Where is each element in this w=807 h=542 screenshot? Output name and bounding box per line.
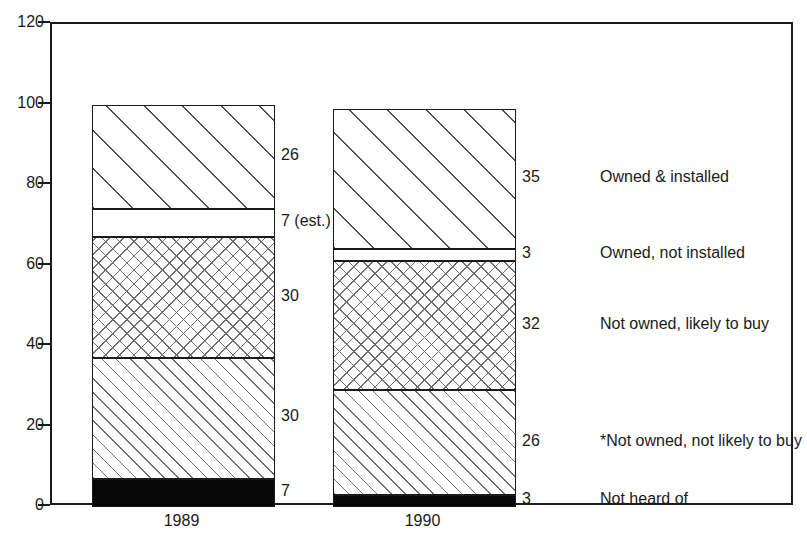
bar-1989: [92, 24, 275, 503]
value-label-1990-0: 3: [522, 491, 531, 507]
bar-segment-1990-0: [333, 495, 516, 507]
legend-item-3: Owned, not installed: [600, 245, 745, 261]
stacked-bar-chart: 120100806040200 730307 (est.)2632632335 …: [0, 0, 807, 542]
y-axis-label-20: 20: [0, 417, 44, 433]
bar-segment-1990-1: [333, 390, 516, 495]
bar-1990: [333, 24, 516, 503]
value-label-1989-3: 7 (est.): [281, 213, 331, 229]
legend-item-4: Owned & installed: [600, 169, 729, 185]
bar-segment-1990-3: [333, 249, 516, 261]
value-label-1990-2: 32: [522, 316, 540, 332]
y-axis-label-100: 100: [0, 95, 44, 111]
value-label-1990-4: 35: [522, 169, 540, 185]
value-label-1989-1: 30: [281, 408, 299, 424]
bar-segment-1990-4: [333, 109, 516, 250]
bar-segment-1989-2: [92, 237, 275, 358]
bar-segment-1989-3: [92, 209, 275, 237]
y-axis-label-0: 0: [0, 497, 44, 513]
value-label-1989-0: 7: [281, 483, 290, 499]
value-label-1990-3: 3: [522, 245, 531, 261]
bar-segment-1990-2: [333, 261, 516, 390]
y-axis-label-60: 60: [0, 256, 44, 272]
y-axis-label-40: 40: [0, 336, 44, 352]
y-axis-label-80: 80: [0, 175, 44, 191]
value-label-1990-1: 26: [522, 433, 540, 449]
legend-item-2: Not owned, likely to buy: [600, 316, 769, 332]
bar-segment-1989-4: [92, 105, 275, 210]
value-label-1989-4: 26: [281, 147, 299, 163]
bar-segment-1989-0: [92, 479, 275, 507]
value-label-1989-2: 30: [281, 288, 299, 304]
legend-item-1: *Not owned, not likely to buy: [600, 433, 802, 449]
bar-segment-1989-1: [92, 358, 275, 479]
x-axis-label-1989: 1989: [90, 513, 273, 529]
legend-item-0: Not heard of: [600, 491, 688, 507]
y-axis-label-120: 120: [0, 14, 44, 30]
x-axis-label-1990: 1990: [331, 513, 514, 529]
